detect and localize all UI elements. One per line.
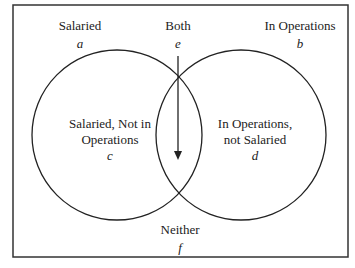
var-d: d bbox=[195, 148, 315, 163]
var-f: f bbox=[148, 240, 212, 255]
label-right-only-2: not Salaried bbox=[195, 132, 315, 147]
label-neither: Neither bbox=[148, 222, 212, 237]
label-in-operations: In Operations bbox=[250, 18, 350, 33]
label-right-only-1: In Operations, bbox=[195, 116, 315, 131]
label-both: Both bbox=[148, 18, 208, 33]
label-left-only-1: Salaried, Not in bbox=[50, 116, 170, 131]
var-b: b bbox=[250, 36, 350, 51]
var-a: a bbox=[40, 36, 120, 51]
label-salaried: Salaried bbox=[40, 18, 120, 33]
var-c: c bbox=[50, 148, 170, 163]
arrow-head-icon bbox=[174, 151, 182, 160]
label-left-only-2: Operations bbox=[50, 132, 170, 147]
var-e: e bbox=[148, 36, 208, 51]
